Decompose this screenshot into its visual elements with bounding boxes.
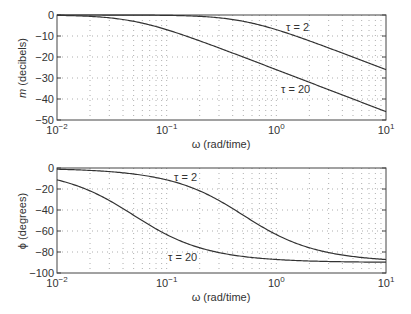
bode-plot-figure: 0−10−20−30−40−50 10−210−1100101 τ = 2 τ …	[0, 0, 411, 314]
x-tick-label: 10−2	[46, 122, 68, 136]
y-tick-label: −40	[35, 204, 54, 216]
y-tick-label: −20	[35, 51, 54, 63]
magnitude-curve-tau-20	[57, 15, 386, 111]
phase-x-axis-label: ω (rad/time)	[192, 291, 251, 303]
y-tick-label: −40	[35, 93, 54, 105]
y-tick-label: −30	[35, 72, 54, 84]
magnitude-x-ticks: 10−210−1100101	[46, 122, 395, 136]
phase-axes-frame	[57, 168, 386, 273]
phase-x-ticks: 10−210−1100101	[46, 275, 395, 289]
y-tick-label: −60	[35, 225, 54, 237]
y-tick-label: 0	[48, 162, 54, 174]
phase-curve-tau-20	[57, 180, 386, 262]
y-tick-label: −20	[35, 183, 54, 195]
y-tick-label: 0	[48, 9, 54, 21]
magnitude-axes-frame	[57, 15, 386, 120]
magnitude-grid	[57, 15, 386, 120]
magnitude-x-axis-label: ω (rad/time)	[192, 138, 251, 150]
x-tick-label: 10−1	[156, 275, 178, 289]
magnitude-y-axis-label: m (decibels)	[16, 38, 28, 98]
x-tick-label: 101	[378, 122, 395, 136]
annotation-tau-20: τ = 20	[281, 83, 310, 95]
x-tick-label: 10−2	[46, 275, 68, 289]
x-tick-label: 100	[268, 122, 285, 136]
x-tick-label: 100	[268, 275, 285, 289]
phase-plot: 0−20−40−60−80−100 10−210−1100101 τ = 2 τ…	[16, 162, 395, 303]
y-tick-label: −80	[35, 246, 54, 258]
phase-curve-tau-2	[57, 169, 386, 259]
phase-y-axis-label: ϕ (degrees)	[16, 193, 28, 249]
x-tick-label: 10−1	[156, 122, 178, 136]
annotation-tau-20: τ = 20	[168, 251, 197, 263]
phase-grid	[57, 168, 386, 273]
annotation-tau-2: τ = 2	[286, 21, 309, 33]
magnitude-curve-tau-2	[57, 15, 386, 70]
x-tick-label: 101	[378, 275, 395, 289]
annotation-tau-2: τ = 2	[174, 171, 197, 183]
magnitude-y-ticks: 0−10−20−30−40−50	[35, 9, 386, 126]
magnitude-plot: 0−10−20−30−40−50 10−210−1100101 τ = 2 τ …	[16, 9, 395, 150]
y-tick-label: −10	[35, 30, 54, 42]
